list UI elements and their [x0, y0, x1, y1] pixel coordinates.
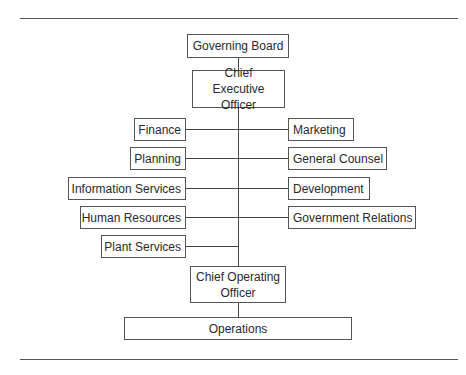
node-human-resources: Human Resources [80, 206, 186, 229]
node-information-services: Information Services [68, 177, 186, 200]
connector-government-relations [238, 217, 288, 218]
node-label: Planning [134, 152, 181, 166]
node-label: Marketing [293, 123, 346, 137]
node-development: Development [288, 177, 370, 200]
node-label: Operations [209, 322, 268, 336]
connector-planning [186, 158, 238, 159]
connector-information-services [186, 188, 238, 189]
node-label: Chief Executive Officer [197, 65, 280, 113]
node-planning: Planning [130, 147, 186, 170]
node-government-relations: Government Relations [288, 206, 416, 229]
connector-marketing [238, 129, 288, 130]
node-marketing: Marketing [288, 118, 354, 141]
node-label: Government Relations [293, 211, 412, 225]
node-label: Chief Operating Officer [195, 269, 281, 301]
node-label: Development [293, 182, 364, 196]
node-label: Plant Services [104, 240, 181, 254]
main-spine [238, 108, 239, 266]
node-plant-services: Plant Services [101, 235, 186, 258]
connector-plant-services [186, 246, 238, 247]
node-coo: Chief Operating Officer [190, 266, 286, 303]
node-operations: Operations [124, 317, 352, 340]
bottom-rule [20, 359, 458, 360]
node-label: General Counsel [293, 152, 383, 166]
node-governing-board: Governing Board [187, 34, 289, 58]
node-label: Governing Board [193, 39, 284, 53]
node-label: Information Services [72, 182, 181, 196]
node-label: Finance [138, 123, 181, 137]
connector-coo-operations [238, 303, 239, 317]
node-label: Human Resources [82, 211, 181, 225]
connector-development [238, 188, 288, 189]
top-rule [20, 18, 458, 19]
connector-human-resources [186, 217, 238, 218]
node-ceo: Chief Executive Officer [192, 70, 285, 108]
connector-general-counsel [238, 158, 288, 159]
node-general-counsel: General Counsel [288, 147, 387, 170]
connector-finance [186, 129, 238, 130]
node-finance: Finance [134, 118, 186, 141]
